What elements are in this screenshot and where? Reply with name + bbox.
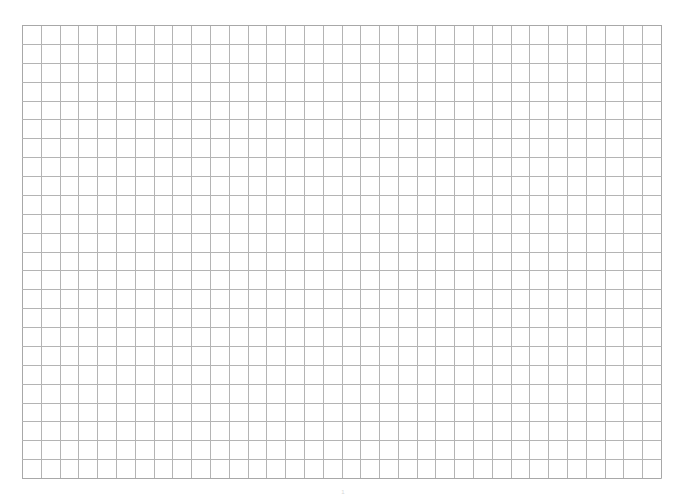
grid-paper (22, 25, 662, 479)
page-number: 1 (0, 489, 686, 495)
